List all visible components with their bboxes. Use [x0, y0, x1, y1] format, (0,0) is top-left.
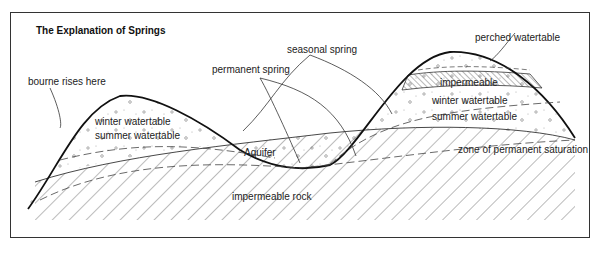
label-bourne-rises-here: bourne rises here — [28, 77, 106, 87]
label-winter-watertable-right: winter watertable — [432, 96, 508, 106]
label-permanent-spring: permanent spring — [212, 65, 290, 75]
label-summer-watertable-left: summer watertable — [95, 131, 180, 141]
label-aquifer: Aquifer — [244, 148, 276, 158]
label-impermeable-rock: impermeable rock — [232, 192, 311, 202]
label-summer-watertable-right: summer watertable — [432, 112, 517, 122]
label-zone-of-permanent-saturation: zone of permanent saturation — [458, 145, 588, 155]
label-impermeable: impermeable — [440, 78, 498, 88]
diagram-title: The Explanation of Springs — [36, 25, 165, 36]
label-perched-watertable: perched watertable — [475, 33, 560, 43]
label-seasonal-spring: seasonal spring — [287, 45, 357, 55]
label-winter-watertable-left: winter watertable — [95, 117, 171, 127]
